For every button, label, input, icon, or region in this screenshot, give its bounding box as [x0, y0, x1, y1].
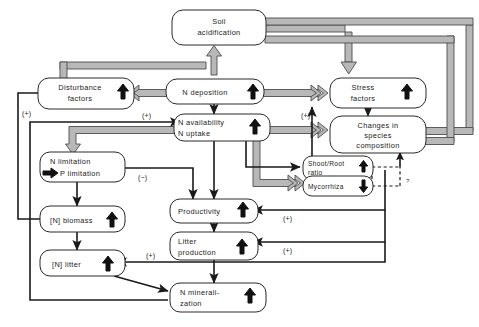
node-changes-species-composition[interactable]: Changes in species composition: [330, 116, 426, 153]
sign-minus-plimitation: (−): [138, 174, 147, 182]
arrow-plimitation-to-productivity: [125, 168, 193, 199]
n-mineralization-line1: N minerali-: [180, 288, 220, 297]
soil-acidification-line2: acidification: [197, 28, 240, 37]
diagram-canvas: Soil acidification Disturbance factors N…: [0, 0, 479, 327]
n-availability-line2: N uptake: [178, 129, 210, 138]
sign-plus-litterproduction: (+): [283, 247, 292, 255]
node-disturbance-factors[interactable]: Disturbance factors: [38, 78, 134, 109]
sign-plus-stress: (+): [301, 112, 310, 120]
fat-arrow-left-return-bar: [60, 62, 206, 69]
node-n-biomass[interactable]: [N] biomass: [40, 206, 125, 232]
flow-diagram: Soil acidification Disturbance factors N…: [0, 0, 479, 327]
node-n-mineralization[interactable]: N minerali- zation: [170, 283, 266, 312]
fat-return-bar-outer-h: [420, 128, 473, 135]
node-n-availability[interactable]: N availability N uptake: [174, 114, 270, 141]
n-limitation-line1: N limitation: [50, 157, 91, 166]
fat-arrow-ndep-to-soil: [207, 46, 222, 76]
fat-arrow-navail-to-nlimitation: [66, 127, 182, 155]
stress-factors-line2: factors: [351, 94, 376, 103]
arrow-changes-to-litterproduction: [253, 210, 385, 242]
node-mycorrhiza[interactable]: Mycorrhiza: [303, 176, 373, 196]
node-productivity[interactable]: Productivity: [170, 199, 258, 223]
question-mark-mycorrhiza: ?: [406, 178, 410, 184]
changes-species-line3: composition: [356, 141, 399, 150]
n-biomass-label: [N] biomass: [50, 216, 93, 225]
disturbance-factors-line1: Disturbance: [58, 83, 101, 92]
litter-production-line2: production: [178, 248, 216, 257]
mycorrhiza-label: Mycorrhiza: [308, 183, 344, 191]
soil-acidification-line1: Soil: [212, 17, 226, 26]
node-stress-factors[interactable]: Stress factors: [330, 78, 426, 108]
disturbance-factors-line2: factors: [68, 94, 93, 103]
fat-return-bar-outer: [466, 25, 473, 131]
litter-production-line1: Litter: [178, 237, 197, 246]
node-boxes: Soil acidification Disturbance factors N…: [38, 10, 426, 312]
node-n-limitation[interactable]: N limitation P limitation: [40, 152, 125, 182]
sign-plus-navailability: (+): [142, 112, 151, 120]
node-n-deposition[interactable]: N deposition: [166, 79, 264, 104]
n-litter-label: [N] litter: [52, 260, 81, 269]
changes-species-line2: species: [364, 131, 392, 140]
arrow-litter-to-mineralization: [114, 276, 168, 291]
shoot-root-line2: ratio: [308, 169, 323, 176]
fat-arrow-soil-to-stress: [265, 25, 352, 62]
node-n-litter[interactable]: [N] litter: [40, 250, 125, 276]
productivity-label: Productivity: [178, 207, 220, 216]
n-deposition-label: N deposition: [182, 88, 227, 97]
fat-arrowhead-soil-down: [341, 62, 357, 74]
sign-plus-disturbance: (+): [22, 110, 31, 118]
stress-factors-line1: Stress: [351, 83, 374, 92]
fat-return-bar-inner: [447, 36, 454, 141]
fat-return-bar-outer-top: [265, 18, 473, 25]
n-mineralization-line2: zation: [180, 299, 202, 308]
sign-plus-nlitter: (+): [146, 252, 155, 260]
n-availability-line1: N availability: [178, 118, 224, 127]
changes-species-line1: Changes in: [358, 121, 399, 130]
shoot-root-line1: Shoot/Root: [308, 160, 345, 167]
fat-arrow-navail-to-changes: [268, 127, 318, 134]
node-litter-production[interactable]: Litter production: [170, 232, 258, 260]
node-soil-acidification[interactable]: Soil acidification: [172, 10, 266, 45]
n-limitation-line2: P limitation: [60, 169, 100, 178]
fat-return-bar-inner-top: [265, 36, 454, 43]
sign-plus-productivity: (+): [283, 215, 292, 223]
